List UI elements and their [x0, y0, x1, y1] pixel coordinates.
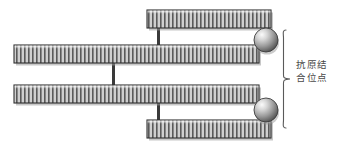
figure-canvas: 抗原结 合位点 [0, 0, 338, 163]
heavy-chain-top [14, 45, 261, 66]
antigen-binding-site-label: 抗原结 合位点 [296, 58, 338, 84]
disulfide-bond-group [114, 26, 159, 122]
antibody-diagram [0, 0, 338, 163]
light-chain-bottom [147, 120, 273, 141]
heavy-chain-bottom [14, 85, 261, 106]
light-chain-top [147, 10, 273, 31]
annotation-brace [283, 30, 290, 128]
